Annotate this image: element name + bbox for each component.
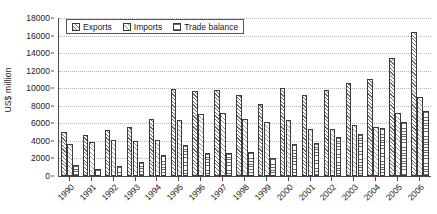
bar-trade-balance-2006 — [423, 111, 428, 176]
x-axis-tick-mark — [353, 177, 354, 181]
bar-exports-2002 — [324, 90, 329, 176]
x-axis-tick-label: 1994 — [143, 182, 163, 202]
bar-trade-balance-1992 — [117, 166, 122, 176]
bar-exports-2005 — [389, 58, 394, 176]
x-axis-label-cell: 2001 — [299, 182, 321, 214]
bar-group — [59, 18, 81, 176]
bar-imports-1993 — [133, 141, 138, 176]
bar-group — [125, 18, 147, 176]
bar-trade-balance-1994 — [161, 155, 166, 176]
bar-imports-1995 — [177, 120, 182, 176]
x-axis-label-cell: 2004 — [364, 182, 386, 214]
bar-imports-1992 — [111, 140, 116, 176]
bar-group — [168, 18, 190, 176]
y-axis-tick-label: 8000 — [31, 101, 50, 111]
legend-swatch-icon — [173, 23, 181, 31]
x-axis-tick-label: 1998 — [231, 182, 251, 202]
x-axis-label-cell: 1995 — [167, 182, 189, 214]
x-axis-label-cell: 2003 — [342, 182, 364, 214]
x-axis-tick-mark — [375, 177, 376, 181]
y-axis-tick-label: 18000 — [26, 13, 50, 23]
y-axis-tick-mark — [51, 35, 54, 36]
x-axis-tick-mark — [222, 177, 223, 181]
legend-item-trade-balance[interactable]: Trade balance — [173, 22, 238, 32]
bar-imports-2004 — [373, 127, 378, 176]
y-axis-tick-mark — [51, 105, 54, 106]
bar-trade-balance-1993 — [139, 162, 144, 176]
bar-trade-balance-1998 — [248, 152, 253, 176]
bar-exports-2004 — [367, 79, 372, 176]
x-axis-label-cell: 2002 — [321, 182, 343, 214]
bar-imports-1999 — [264, 122, 269, 176]
y-axis-tick-mark — [51, 18, 54, 19]
legend-label: Exports — [83, 22, 112, 32]
bar-exports-1996 — [192, 91, 197, 176]
legend-label: Trade balance — [184, 22, 238, 32]
legend-item-imports[interactable]: Imports — [123, 22, 162, 32]
x-axis-tick-mark — [397, 177, 398, 181]
y-axis-tick-labels: 0200040006000800010000120001400016000180… — [14, 14, 54, 176]
bar-exports-2001 — [302, 95, 307, 176]
bar-exports-2000 — [280, 88, 285, 176]
x-axis-label-cell: 1992 — [102, 182, 124, 214]
x-axis-label-cell: 1998 — [233, 182, 255, 214]
bar-group — [81, 18, 103, 176]
bar-imports-2005 — [395, 113, 400, 176]
bar-group — [234, 18, 256, 176]
x-axis-tick-mark — [244, 177, 245, 181]
x-axis-tick-mark — [310, 177, 311, 181]
bar-group — [387, 18, 409, 176]
x-axis-tick-mark — [288, 177, 289, 181]
x-axis-tick-label: 1996 — [187, 182, 207, 202]
bar-imports-1990 — [67, 144, 72, 176]
x-axis-tick-label: 2005 — [384, 182, 404, 202]
bar-imports-2006 — [417, 97, 422, 176]
x-axis-tick-label: 2000 — [274, 182, 294, 202]
y-axis-tick-mark — [51, 53, 54, 54]
x-axis-tick-mark — [266, 177, 267, 181]
bar-group — [300, 18, 322, 176]
y-axis-title-text: US$ million — [3, 67, 13, 112]
bar-imports-2000 — [286, 120, 291, 176]
y-axis-tick-label: 4000 — [31, 136, 50, 146]
x-axis-tick-label: 1992 — [99, 182, 119, 202]
x-axis-tick-label: 1990 — [56, 182, 76, 202]
y-axis-tick-label: 14000 — [26, 48, 50, 58]
bar-exports-1998 — [236, 95, 241, 176]
x-axis-label-cell: 1999 — [255, 182, 277, 214]
bar-trade-balance-1999 — [270, 158, 275, 176]
bar-trade-balance-2005 — [401, 122, 406, 176]
x-axis-tick-mark — [419, 177, 420, 181]
bar-group — [147, 18, 169, 176]
legend-swatch-icon — [72, 23, 80, 31]
chart-legend: ExportsImportsTrade balance — [66, 19, 244, 34]
x-axis-tick-label: 2003 — [340, 182, 360, 202]
bar-exports-2003 — [346, 83, 351, 176]
bar-trade-balance-1997 — [226, 153, 231, 176]
bar-exports-1992 — [105, 130, 110, 176]
y-axis-tick-mark — [51, 70, 54, 71]
y-axis-tick-label: 2000 — [31, 153, 50, 163]
x-axis-label-cell: 1996 — [189, 182, 211, 214]
bar-imports-1996 — [198, 114, 203, 176]
x-axis-tick-mark — [113, 177, 114, 181]
x-axis-label-cell: 2006 — [408, 182, 430, 214]
bar-imports-2002 — [330, 129, 335, 176]
bar-group — [212, 18, 234, 176]
bar-imports-1998 — [242, 119, 247, 176]
bar-imports-2001 — [308, 129, 313, 176]
bar-group — [278, 18, 300, 176]
bar-exports-1997 — [214, 90, 219, 176]
legend-label: Imports — [134, 22, 162, 32]
x-axis-label-cell: 1994 — [146, 182, 168, 214]
y-axis-tick-label: 12000 — [26, 66, 50, 76]
bar-group — [256, 18, 278, 176]
bar-imports-1997 — [220, 113, 225, 176]
x-axis-tick-label: 1991 — [77, 182, 97, 202]
legend-item-exports[interactable]: Exports — [72, 22, 112, 32]
bar-imports-2003 — [352, 125, 357, 176]
x-axis-label-cell: 1993 — [124, 182, 146, 214]
bar-trade-balance-1990 — [73, 165, 78, 176]
y-axis-tick-label: 16000 — [26, 31, 50, 41]
bar-groups — [59, 18, 431, 176]
